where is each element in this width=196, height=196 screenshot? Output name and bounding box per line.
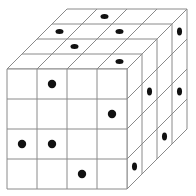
front-dot bbox=[48, 140, 56, 148]
right-dot bbox=[177, 28, 182, 36]
right-dot bbox=[147, 88, 152, 96]
cube-diagram bbox=[0, 0, 196, 196]
top-dot bbox=[116, 29, 124, 34]
right-dot bbox=[162, 133, 167, 141]
front-dot bbox=[48, 80, 56, 88]
front-dot bbox=[18, 140, 26, 148]
front-dot bbox=[108, 110, 116, 118]
right-dot bbox=[132, 163, 137, 171]
front-dot bbox=[78, 170, 86, 178]
front-face bbox=[7, 69, 127, 189]
right-dot bbox=[177, 88, 182, 96]
top-dot bbox=[56, 29, 64, 34]
top-dot bbox=[101, 14, 109, 19]
top-dot bbox=[116, 59, 124, 64]
top-dot bbox=[71, 44, 79, 49]
cube-grid-svg bbox=[0, 0, 196, 196]
